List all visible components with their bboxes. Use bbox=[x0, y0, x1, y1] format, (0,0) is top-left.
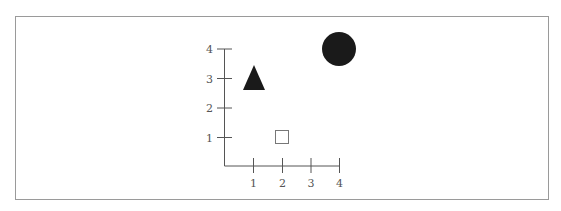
y-tick-label-2: 2 bbox=[206, 102, 213, 115]
x-tick-label-3: 3 bbox=[308, 177, 315, 190]
y-tick-label-1: 1 bbox=[206, 132, 213, 145]
x-tick-label-1: 1 bbox=[250, 177, 257, 190]
scatter-chart: 4 3 2 1 1 2 3 4 bbox=[0, 0, 561, 211]
triangle-marker-icon bbox=[243, 65, 265, 90]
x-tick-label-4: 4 bbox=[336, 177, 343, 190]
y-tick-label-3: 3 bbox=[206, 73, 213, 86]
circle-marker-icon bbox=[322, 32, 356, 66]
y-tick-label-4: 4 bbox=[206, 43, 213, 56]
x-tick-label-2: 2 bbox=[279, 177, 286, 190]
y-ticks: 4 3 2 1 bbox=[206, 43, 232, 145]
x-ticks: 1 2 3 4 bbox=[250, 158, 343, 190]
square-marker-icon bbox=[276, 131, 289, 144]
